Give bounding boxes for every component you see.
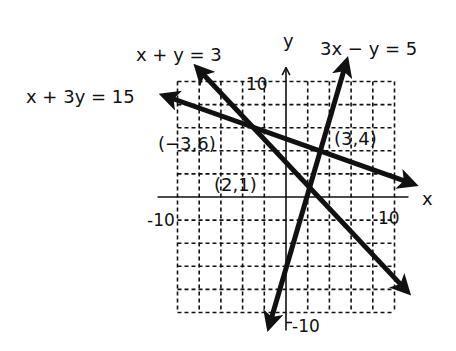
point-label-neg3-6: (−3,6)	[158, 135, 216, 153]
equation-label-x-plus-3y: x + 3y = 15	[26, 88, 135, 106]
tick-label-y-max: 10	[246, 76, 268, 93]
tick-label-y-min: -10	[292, 318, 320, 335]
system-of-equations-graph: x + y = 3 x + 3y = 15 3x − y = 5 (−3,6) …	[0, 0, 456, 351]
point-label-3-4: (3,4)	[334, 130, 377, 148]
tick-label-x-min: -10	[147, 212, 175, 229]
equation-label-3x-minus-y: 3x − y = 5	[320, 40, 417, 58]
equation-label-x-plus-y: x + y = 3	[136, 46, 222, 64]
equation-lines	[167, 64, 411, 324]
x-axis-label: x	[422, 190, 433, 208]
point-label-2-1: (2,1)	[214, 176, 257, 194]
tick-label-x-max: 10	[378, 210, 400, 227]
y-axis-label: y	[283, 32, 294, 50]
